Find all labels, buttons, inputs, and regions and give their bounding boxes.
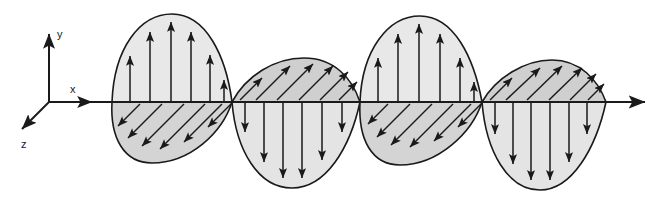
lobe-3-upper-region	[482, 60, 606, 102]
lobe-1-lower-region	[232, 102, 360, 188]
coordinate-axes: y x z	[21, 28, 92, 150]
lobe-1	[232, 58, 360, 188]
z-axis-label: z	[21, 138, 27, 150]
figure-canvas: y x z	[0, 0, 663, 202]
y-axis-label: y	[57, 28, 63, 40]
wave-diagram-svg: y x z	[0, 0, 663, 202]
z-axis-line	[22, 102, 49, 129]
x-axis-label: x	[70, 83, 76, 95]
